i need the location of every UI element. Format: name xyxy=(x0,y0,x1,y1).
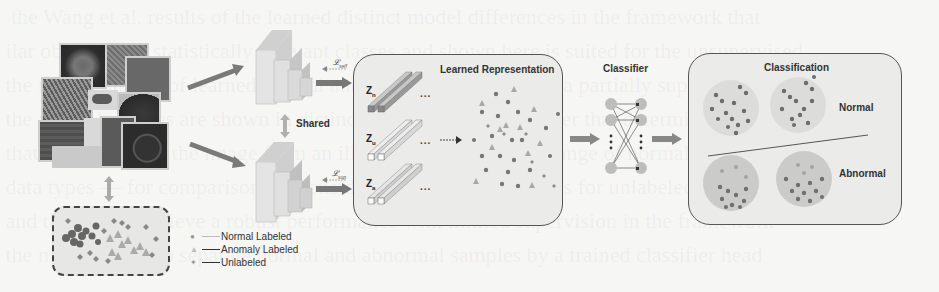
representation-scatter xyxy=(470,84,562,194)
double-arrow-vertical-icon xyxy=(104,176,114,202)
dotted-arrow-icon xyxy=(440,136,462,144)
z-normal-ellipsis: ... xyxy=(420,88,431,99)
arrow-to-bottom-encoder-icon xyxy=(188,140,248,172)
input-thumb-11 xyxy=(52,146,102,168)
legend-label: Anomaly Labeled xyxy=(221,244,298,255)
legend-label: Unlabeled xyxy=(221,257,266,268)
z-anomaly-feature-bars xyxy=(366,154,426,204)
bottom-encoder-network xyxy=(254,132,324,224)
classifier-network-icon xyxy=(603,98,649,178)
arrow-representation-to-classifier-icon xyxy=(570,133,600,145)
z-anomaly-ellipsis: ... xyxy=(420,181,431,192)
classification-clusters xyxy=(688,53,900,223)
arrow-classifier-to-classification-icon xyxy=(652,133,682,145)
input-thumb-10 xyxy=(121,122,169,170)
classifier-title: Classifier xyxy=(603,63,648,74)
legend-line xyxy=(202,249,220,250)
shared-label: Shared xyxy=(296,118,330,129)
top-encoder-network xyxy=(254,22,324,112)
input-thumb-5-object xyxy=(92,94,112,104)
self-loss-arrow-icon xyxy=(322,66,346,72)
arrow-top-encoder-to-representation-icon xyxy=(316,77,352,89)
arrow-to-top-encoder-icon xyxy=(186,62,246,92)
legend-unlabeled: ✦ Unlabeled xyxy=(190,257,266,268)
z-unlabeled-feature-bars xyxy=(366,110,426,160)
z-normal-feature-bars xyxy=(366,62,426,112)
legend-anomaly-labeled: ▲ Anomaly Labeled xyxy=(190,244,298,255)
cluster-scatter xyxy=(52,206,166,272)
z-unlabeled-ellipsis: ... xyxy=(420,135,431,146)
shared-double-arrow-icon xyxy=(280,114,290,138)
legend-label: Normal Labeled xyxy=(221,231,292,242)
legend-line xyxy=(202,262,220,263)
arrow-bottom-encoder-to-representation-icon xyxy=(316,183,352,195)
learned-representation-title: Learned Representation xyxy=(440,64,554,75)
triangle-marker-icon: ▲ xyxy=(190,245,202,254)
diamond-marker-icon: ✦ xyxy=(190,258,202,267)
legend-line xyxy=(202,236,220,237)
circle-marker-icon: ● xyxy=(190,232,202,241)
legend-normal-labeled: ● Normal Labeled xyxy=(190,231,292,242)
